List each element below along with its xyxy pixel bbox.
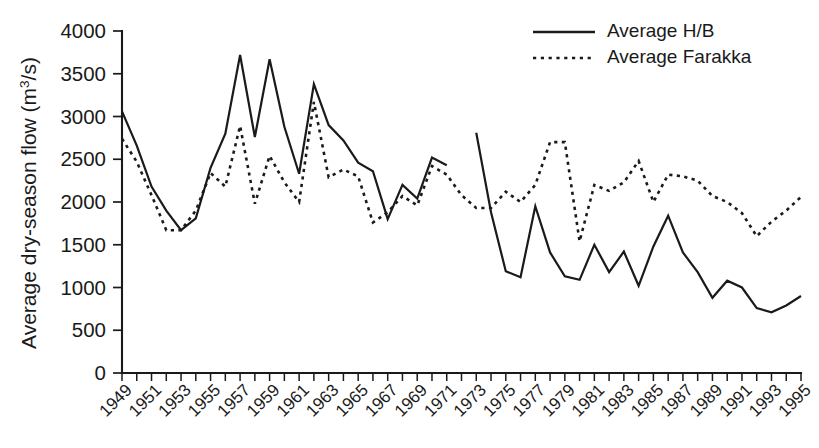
y-axis-tick-label: 0 (95, 361, 106, 384)
y-axis-tick-label: 3500 (60, 62, 106, 85)
y-axis-tick-label: 2500 (60, 147, 106, 170)
legend-label-average-farakka: Average Farakka (607, 46, 752, 67)
y-axis-label: Average dry-season flow (m3/s) (17, 57, 40, 349)
svg-text:Average dry-season flow (m3/s): Average dry-season flow (m3/s) (17, 57, 40, 349)
legend-label-average-hb: Average H/B (607, 20, 714, 41)
dry-season-flow-chart: Average dry-season flow (m3/s) 050010001… (0, 0, 819, 448)
y-axis-tick-label: 500 (72, 318, 106, 341)
y-axis-tick-label: 2000 (60, 190, 106, 213)
y-axis-tick-label: 1000 (60, 276, 106, 299)
y-axis-tick-label: 1500 (60, 233, 106, 256)
y-axis-tick-label: 3000 (60, 105, 106, 128)
y-axis-tick-label: 4000 (60, 19, 106, 42)
y-axis-label-superscript: 3 (17, 80, 32, 88)
y-axis-label-base: Average dry-season flow (m (17, 88, 40, 349)
y-axis-label-tail: /s) (17, 57, 40, 80)
